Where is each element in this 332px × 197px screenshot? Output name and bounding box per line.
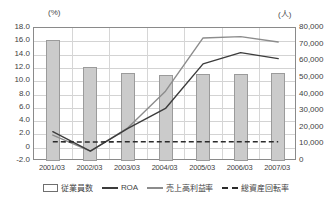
right-tick-label: 80,000 <box>299 23 323 31</box>
solid-line-dark-icon <box>102 187 118 189</box>
x-tick-label: 2007/03 <box>258 163 296 172</box>
right-axis-unit-label: (人) <box>278 8 291 19</box>
x-tick-label: 2002/03 <box>71 163 109 172</box>
legend-label: ROA <box>121 183 138 192</box>
left-tick-label: 18.0 <box>0 23 30 31</box>
x-tick-label: 2004/03 <box>146 163 184 172</box>
x-tick-label: 2006/03 <box>221 163 259 172</box>
legend-item-2[interactable]: ROA <box>102 183 138 192</box>
left-tick-label: 10.0 <box>0 76 30 84</box>
chart-legend: 従業員数ROA売上高利益率総資産回転率 <box>0 180 332 195</box>
left-tick-label: 2.0 <box>0 129 30 137</box>
right-tick-label: 20,000 <box>299 123 323 131</box>
right-tick-label: 0 <box>299 156 303 164</box>
right-tick-label: 60,000 <box>299 56 323 64</box>
x-tick-label: 2005/03 <box>183 163 221 172</box>
legend-label: 従業員数 <box>61 182 93 193</box>
left-tick-label: 0 <box>0 143 30 151</box>
employee-profitability-chart: (%) (人) 18.016.014.012.010.08.06.04.02.0… <box>0 0 332 197</box>
left-tick-label: 4.0 <box>0 116 30 124</box>
right-tick-label: 30,000 <box>299 106 323 114</box>
legend-item-3[interactable]: 売上高利益率 <box>147 182 213 193</box>
plot-area <box>33 27 296 160</box>
right-tick-label: 40,000 <box>299 90 323 98</box>
left-tick-label: 6.0 <box>0 103 30 111</box>
solid-line-gray-icon <box>147 187 163 189</box>
x-tick-label: 2003/03 <box>108 163 146 172</box>
line-roa <box>53 53 278 151</box>
left-tick-label: 14.0 <box>0 50 30 58</box>
x-tick-label: 2001/03 <box>33 163 71 172</box>
legend-label: 売上高利益率 <box>166 182 213 193</box>
left-axis-unit-label: (%) <box>48 8 60 17</box>
right-tick-label: 70,000 <box>299 40 323 48</box>
line-series-layer <box>34 28 297 161</box>
legend-label: 総資産回転率 <box>241 182 288 193</box>
left-tick-label: 8.0 <box>0 90 30 98</box>
right-tick-label: 10,000 <box>299 139 323 147</box>
legend-item-4[interactable]: 総資産回転率 <box>222 182 288 193</box>
bar-swatch-icon <box>43 184 58 192</box>
left-tick-label: 12.0 <box>0 63 30 71</box>
left-tick-label: 16.0 <box>0 36 30 44</box>
left-tick-label: -2.0 <box>0 156 30 164</box>
right-tick-label: 50,000 <box>299 73 323 81</box>
dashed-line-icon <box>222 187 238 189</box>
legend-item-1[interactable]: 従業員数 <box>43 182 93 193</box>
